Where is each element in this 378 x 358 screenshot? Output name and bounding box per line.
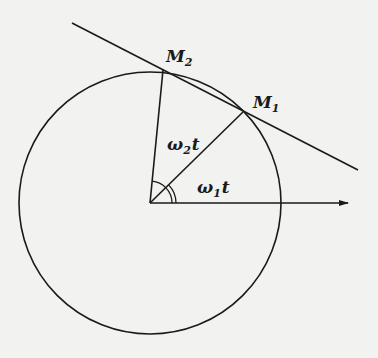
label-omega2-t: ω2t bbox=[167, 134, 200, 157]
label-m1: M1 bbox=[252, 92, 279, 115]
label-omega1-t: ω1t bbox=[197, 177, 230, 200]
diagram-canvas: M2 M1 ω2t ω1t bbox=[0, 0, 378, 358]
label-m2: M2 bbox=[165, 46, 193, 69]
angle-arc-omega1-outer bbox=[166, 188, 172, 203]
radius-m2 bbox=[150, 70, 163, 203]
angle-arc-omega2 bbox=[152, 181, 166, 188]
tangent-line bbox=[72, 23, 358, 170]
